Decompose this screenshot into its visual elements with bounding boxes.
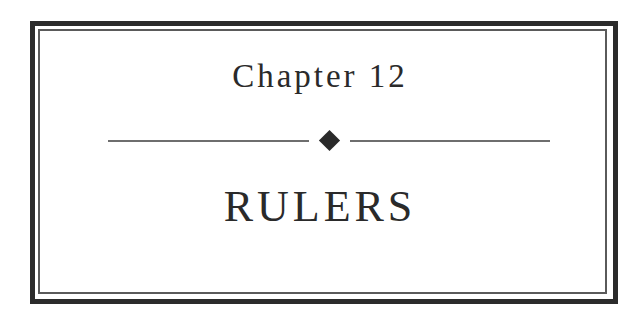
chapter-label: Chapter 12	[0, 58, 640, 95]
left-rule-divider	[108, 140, 309, 142]
chapter-title: RULERS	[0, 181, 640, 232]
right-rule-divider	[350, 140, 550, 142]
